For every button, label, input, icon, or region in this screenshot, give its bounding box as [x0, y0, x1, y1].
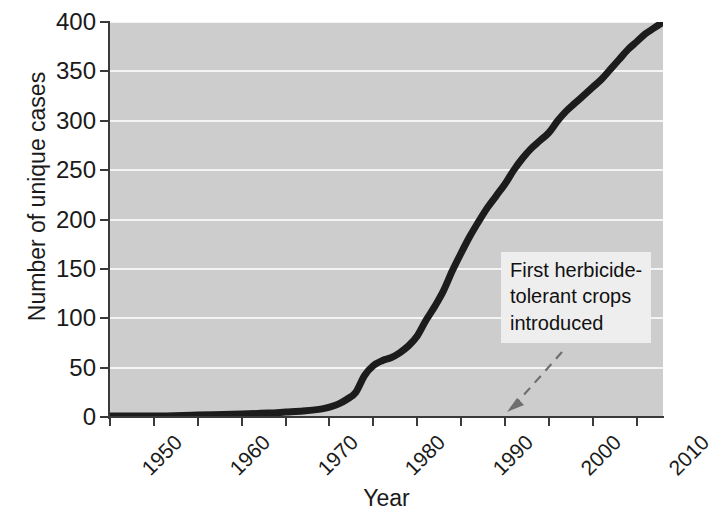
x-tick-2000	[548, 417, 550, 426]
y-tick-200	[100, 219, 108, 221]
y-tick-150	[100, 268, 108, 270]
y-axis-line	[108, 21, 110, 419]
annotation-label: First herbicide- tolerant crops introduc…	[501, 252, 651, 343]
y-tick-label-0: 0	[83, 405, 96, 429]
y-tick-label-200: 200	[56, 208, 96, 232]
x-tick-1985	[416, 417, 418, 426]
x-tick-1975	[328, 417, 330, 426]
x-tick-label-1970: 1970	[313, 431, 361, 479]
x-tick-label-1980: 1980	[401, 431, 449, 479]
x-tick-2005	[592, 417, 594, 426]
x-axis-line	[108, 416, 664, 418]
y-tick-label-300: 300	[56, 109, 96, 133]
x-tick-1980	[372, 417, 374, 426]
y-tick-300	[100, 120, 108, 122]
y-tick-label-50: 50	[69, 356, 96, 380]
x-tick-1995	[504, 417, 506, 426]
plot-area	[110, 22, 663, 417]
y-tick-250	[100, 169, 108, 171]
x-tick-1950	[109, 417, 111, 426]
x-tick-1965	[241, 417, 243, 426]
y-tick-0	[100, 416, 108, 418]
data-series-line	[110, 22, 663, 417]
x-tick-label-2010: 2010	[664, 431, 712, 479]
x-tick-1955	[153, 417, 155, 426]
y-tick-350	[100, 70, 108, 72]
y-tick-400	[100, 21, 108, 23]
x-tick-1970	[285, 417, 287, 426]
y-tick-50	[100, 367, 108, 369]
x-tick-label-2000: 2000	[577, 431, 625, 479]
x-tick-2010	[636, 417, 638, 426]
y-tick-label-100: 100	[56, 306, 96, 330]
x-tick-1960	[197, 417, 199, 426]
x-tick-label-1950: 1950	[138, 431, 186, 479]
y-tick-100	[100, 317, 108, 319]
y-tick-label-150: 150	[56, 257, 96, 281]
y-axis-title: Number of unique cases	[26, 27, 49, 367]
y-tick-label-250: 250	[56, 158, 96, 182]
y-tick-label-400: 400	[56, 10, 96, 34]
x-axis-title: Year	[110, 487, 663, 510]
x-tick-1990	[460, 417, 462, 426]
y-tick-label-350: 350	[56, 59, 96, 83]
x-tick-label-1960: 1960	[225, 431, 273, 479]
x-tick-label-1990: 1990	[489, 431, 537, 479]
